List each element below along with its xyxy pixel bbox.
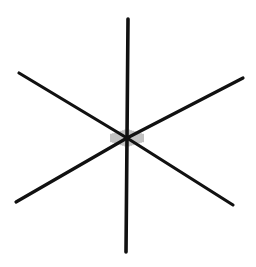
asterisk-star-drawing (0, 0, 256, 267)
star-arms (16, 19, 243, 252)
arm-top (127, 19, 128, 138)
arm-bottom (126, 138, 127, 252)
arm-lower-right (127, 138, 233, 205)
arm-lower-left (16, 138, 127, 202)
arm-upper-right (127, 78, 243, 138)
arm-upper-left (19, 73, 127, 138)
drawing-canvas (0, 0, 256, 267)
